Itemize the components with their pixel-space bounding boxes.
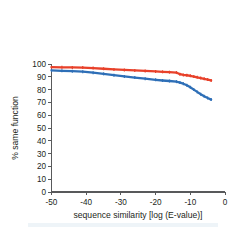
y-tick-label: 20 <box>37 162 47 171</box>
x-tick-label: -40 <box>80 198 92 207</box>
axis-lines <box>52 64 226 192</box>
y-axis-title: % same function <box>10 96 20 160</box>
data-series-group <box>52 66 212 101</box>
y-tick-label: 80 <box>37 86 47 95</box>
y-tick-label: 60 <box>37 111 47 120</box>
y-tick-labels: 0102030405060708090100 <box>32 60 46 197</box>
y-tick-label: 50 <box>37 124 47 133</box>
x-axis-title: sequence similarity [log (E-value)] <box>74 210 203 220</box>
x-tick-label: -10 <box>184 198 196 207</box>
x-tick-labels: -50-40-30-20-100 <box>46 198 228 207</box>
y-tick-label: 0 <box>41 188 46 197</box>
y-tick-label: 30 <box>37 150 47 159</box>
line-chart: -50-40-30-20-100 0102030405060708090100 … <box>0 0 245 227</box>
y-tick-label: 40 <box>37 137 47 146</box>
axes-group <box>48 64 225 195</box>
x-tick-label: -50 <box>46 198 58 207</box>
x-tick-label: -30 <box>115 198 127 207</box>
x-tick-label: -20 <box>150 198 162 207</box>
y-tick-label: 100 <box>32 60 46 69</box>
bottom-decorative-band <box>28 223 218 227</box>
y-tick-label: 10 <box>37 175 47 184</box>
x-tick-label: 0 <box>223 198 228 207</box>
chart-container: -50-40-30-20-100 0102030405060708090100 … <box>0 0 245 227</box>
y-tick-label: 90 <box>37 73 47 82</box>
y-tick-label: 70 <box>37 98 47 107</box>
